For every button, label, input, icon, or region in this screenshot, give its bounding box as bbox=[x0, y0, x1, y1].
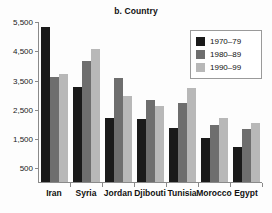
y-axis-tick-label: 500 bbox=[20, 164, 33, 173]
bar bbox=[219, 118, 228, 182]
bar bbox=[178, 103, 187, 182]
legend-swatch-icon bbox=[196, 37, 205, 46]
x-axis-label-djibouti: Djibouti bbox=[134, 188, 166, 198]
y-axis-line bbox=[38, 22, 39, 183]
legend-swatch-icon bbox=[196, 50, 205, 59]
y-axis-tick-label: 2,500 bbox=[13, 105, 33, 114]
bar-group bbox=[105, 22, 132, 182]
bar bbox=[59, 74, 68, 182]
y-axis-tick-label: 5,500 bbox=[13, 18, 33, 27]
bar bbox=[91, 49, 100, 182]
x-axis-label-iran: Iran bbox=[46, 188, 62, 198]
bar bbox=[50, 77, 59, 182]
y-axis-tick-label: 4,500 bbox=[13, 47, 33, 56]
bar bbox=[155, 106, 164, 182]
y-axis-tick-label: 1,500 bbox=[13, 135, 33, 144]
bar bbox=[210, 125, 219, 182]
x-axis-tick bbox=[102, 183, 103, 187]
legend-swatch-icon bbox=[196, 63, 205, 72]
x-axis-tick bbox=[134, 183, 135, 187]
y-axis-tick-label: 3,500 bbox=[13, 76, 33, 85]
y-axis-tick bbox=[35, 81, 39, 82]
bar bbox=[105, 118, 114, 182]
bar-group bbox=[137, 22, 164, 182]
bar bbox=[123, 96, 132, 182]
bar bbox=[137, 119, 146, 182]
x-axis-labels: IranSyriaJordanDjiboutiTunisiaMoroccoEgy… bbox=[38, 188, 262, 204]
y-axis-tick bbox=[35, 51, 39, 52]
bar-chart: b. Country 5001,5002,5003,5004,5005,500 … bbox=[0, 0, 272, 213]
y-axis-tick bbox=[35, 22, 39, 23]
x-axis-tick bbox=[230, 183, 231, 187]
bar bbox=[201, 138, 210, 182]
x-axis-label-jordan: Jordan bbox=[104, 188, 132, 198]
chart-legend: 1970–791980–891990–99 bbox=[190, 30, 262, 79]
x-axis-label-morocco: Morocco bbox=[196, 188, 231, 198]
x-axis-tick bbox=[166, 183, 167, 187]
x-axis-tick bbox=[70, 183, 71, 187]
x-axis-tick bbox=[262, 183, 263, 187]
x-axis-line bbox=[38, 182, 262, 183]
bar bbox=[169, 128, 178, 182]
x-axis-label-syria: Syria bbox=[76, 188, 97, 198]
legend-label: 1990–99 bbox=[210, 63, 241, 72]
bar bbox=[146, 100, 155, 182]
bar bbox=[233, 147, 242, 182]
bar bbox=[187, 88, 196, 182]
bar-group bbox=[73, 22, 100, 182]
legend-item: 1990–99 bbox=[196, 61, 256, 74]
x-axis-label-egypt: Egypt bbox=[234, 188, 258, 198]
bar bbox=[242, 129, 251, 182]
x-axis-tick bbox=[198, 183, 199, 187]
x-axis-label-tunisia: Tunisia bbox=[167, 188, 196, 198]
y-axis-tick bbox=[35, 168, 39, 169]
chart-title: b. Country bbox=[0, 6, 272, 16]
bar bbox=[73, 87, 82, 182]
bar bbox=[114, 78, 123, 182]
legend-item: 1980–89 bbox=[196, 48, 256, 61]
bar bbox=[82, 61, 91, 182]
bar-group bbox=[41, 22, 68, 182]
y-axis-tick bbox=[35, 110, 39, 111]
y-axis-tick bbox=[35, 139, 39, 140]
legend-label: 1980–89 bbox=[210, 50, 241, 59]
legend-item: 1970–79 bbox=[196, 35, 256, 48]
bar bbox=[41, 27, 50, 182]
legend-label: 1970–79 bbox=[210, 37, 241, 46]
bar bbox=[251, 123, 260, 182]
